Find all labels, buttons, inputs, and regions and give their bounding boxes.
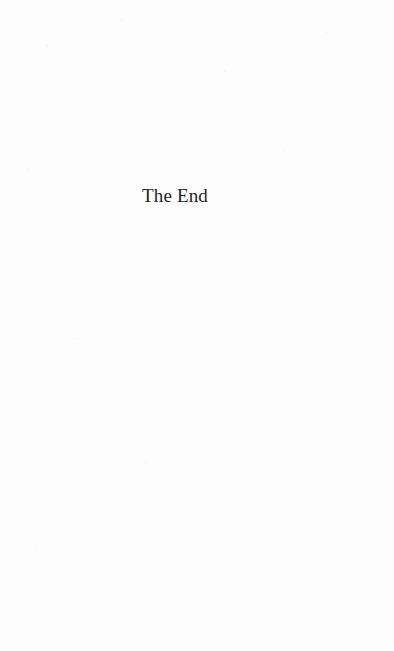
book-page: The End	[0, 0, 394, 651]
the-end-text: The End	[137, 186, 213, 206]
paper-texture	[0, 0, 394, 651]
